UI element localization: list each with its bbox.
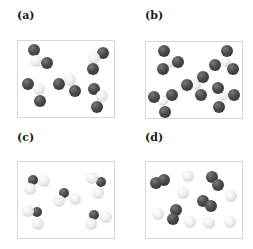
panel-c [17,161,115,239]
light-atom-icon [86,172,98,184]
dark-atom-icon [212,82,224,94]
light-atom-icon [38,175,50,187]
light-atom-icon [203,217,215,229]
light-atom-icon [100,211,112,223]
dark-atom-icon [172,56,184,68]
dark-atom-icon [158,174,170,186]
dark-atom-icon [34,95,46,107]
light-atom-icon [32,218,44,230]
dark-atom-icon [91,101,103,113]
panel-label-a: (a) [17,10,35,22]
dark-atom-icon [228,89,240,101]
light-atom-icon [85,218,97,230]
light-atom-icon [69,193,81,205]
dark-atom-icon [87,63,99,75]
dark-atom-icon [213,101,225,113]
dark-atom-icon [195,89,207,101]
panel-b [145,41,243,119]
dark-atom-icon [205,200,217,212]
dark-atom-icon [158,45,170,57]
dark-atom-icon [221,45,233,57]
light-atom-icon [182,170,194,182]
light-atom-icon [152,208,164,220]
dark-atom-icon [166,89,178,101]
light-atom-icon [33,83,45,95]
light-atom-icon [224,216,236,228]
dark-atom-icon [181,79,193,91]
light-atom-icon [92,187,104,199]
light-atom-icon [53,195,65,207]
panel-d [145,161,243,239]
light-atom-icon [177,187,189,199]
light-atom-icon [24,183,36,195]
panel-label-b: (b) [145,10,163,22]
dark-atom-icon [167,213,179,225]
dark-atom-icon [157,63,169,75]
dark-atom-icon [69,85,81,97]
dark-atom-icon [159,106,171,118]
dark-atom-icon [212,179,224,191]
dark-atom-icon [41,57,53,69]
light-atom-icon [184,216,196,228]
dark-atom-icon [209,59,221,71]
dark-atom-icon [148,91,160,103]
dark-atom-icon [197,71,209,83]
panel-label-d: (d) [145,132,163,144]
light-atom-icon [225,190,237,202]
dark-atom-icon [227,63,239,75]
panel-a [17,40,115,118]
light-atom-icon [22,205,34,217]
panel-label-c: (c) [17,132,34,144]
